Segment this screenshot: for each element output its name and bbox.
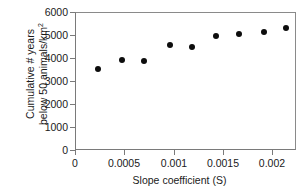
x-axis-title: Slope coefficient (S) (0, 174, 307, 186)
y-axis-title-line1: Cumulative # years (24, 29, 36, 119)
y-tick-label: 5000 (36, 30, 68, 40)
y-tick-label: 4000 (36, 53, 68, 63)
data-point (141, 58, 147, 64)
data-point (119, 57, 125, 63)
x-tick-mark (174, 150, 175, 155)
x-tick-mark (75, 150, 76, 155)
y-tick-label: 2000 (36, 99, 68, 109)
data-point (236, 31, 242, 37)
scatter-chart-figure: Cumulative # years below 50 animals/km2 … (0, 0, 307, 195)
x-tick-mark (124, 150, 125, 155)
data-point (283, 25, 289, 31)
y-tick-label: 3000 (36, 76, 68, 86)
x-tick-mark (272, 150, 273, 155)
data-point (189, 44, 195, 50)
data-point (167, 42, 173, 48)
y-axis-title-exponent: 2 (37, 23, 44, 27)
data-point (95, 66, 101, 72)
data-point (213, 33, 219, 39)
data-point (261, 29, 267, 35)
x-tick-mark (223, 150, 224, 155)
x-tick-label: 0.002 (242, 158, 302, 169)
y-tick-label: 0 (36, 145, 68, 155)
plot-area (75, 12, 296, 150)
y-tick-label: 6000 (36, 7, 68, 17)
x-axis-title-text: Slope coefficient (S) (81, 174, 227, 186)
y-tick-label: 1000 (36, 122, 68, 132)
